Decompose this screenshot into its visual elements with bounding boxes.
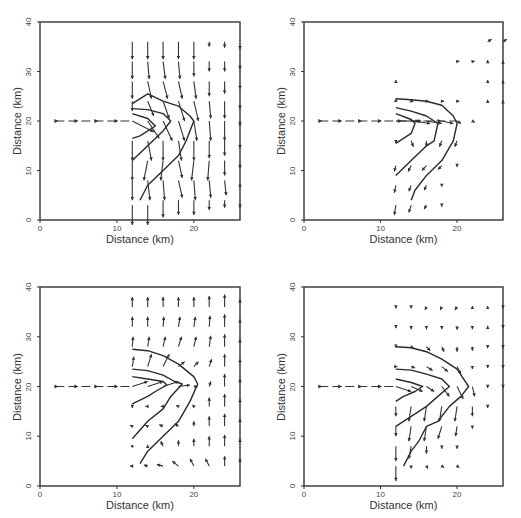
- x-tick-label: 20: [452, 490, 462, 499]
- y-tick-label: 40: [288, 281, 298, 293]
- x-tick-label: 10: [376, 490, 386, 499]
- quiver-plot: [0, 0, 521, 518]
- y-axis-label: Distance (km): [274, 337, 288, 437]
- y-tick-label: 30: [288, 331, 298, 343]
- streamline: [396, 347, 469, 466]
- y-tick-label: 10: [288, 430, 298, 442]
- x-tick-label: 0: [299, 490, 309, 499]
- y-tick-label: 20: [288, 381, 298, 393]
- x-axis-label: Distance (km): [304, 499, 503, 511]
- y-tick-label: 0: [288, 480, 298, 492]
